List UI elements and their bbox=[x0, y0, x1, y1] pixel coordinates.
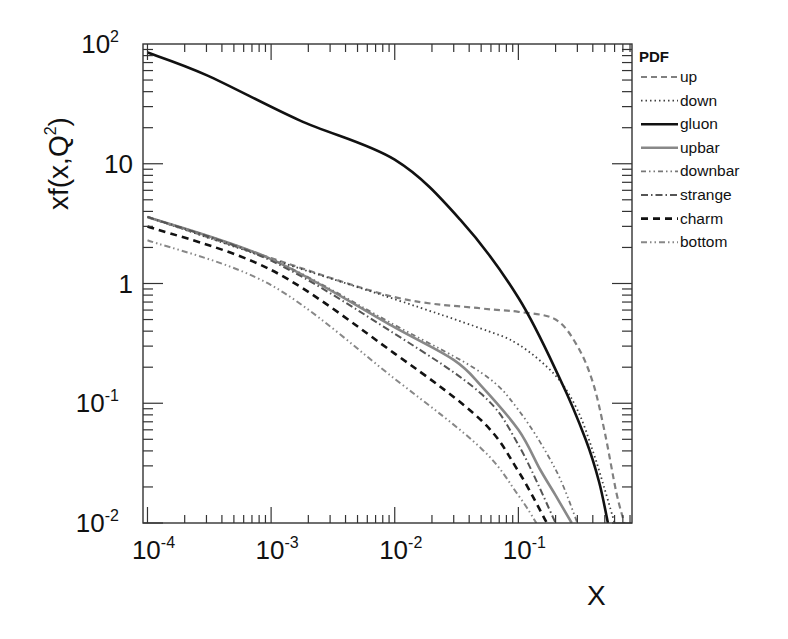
y-axis-title-main: xf(x,Q bbox=[43, 135, 74, 210]
x-tick-label: 10-3 bbox=[256, 534, 299, 565]
legend-label: bottom bbox=[680, 233, 727, 250]
y-tick-label: 10-2 bbox=[76, 507, 119, 538]
y-axis-title-close: ) bbox=[43, 117, 74, 126]
tick-labels: 10-410-310-210-110-210-1110102 bbox=[76, 28, 546, 565]
pdf-chart: 10-410-310-210-110-210-1110102 xf(x,Q2) … bbox=[0, 0, 788, 639]
legend-item-downbar: downbar bbox=[641, 162, 739, 179]
legend-item-strange: strange bbox=[641, 186, 732, 203]
legend: PDF updowngluonupbardownbarstrangecharmb… bbox=[639, 48, 739, 250]
y-axis-title: xf(x,Q2) bbox=[42, 117, 74, 210]
legend-item-up: up bbox=[641, 68, 697, 85]
series-charm-curve bbox=[148, 226, 547, 523]
legend-label: strange bbox=[680, 186, 732, 203]
legend-item-upbar: upbar bbox=[641, 139, 720, 156]
legend-item-charm: charm bbox=[641, 210, 723, 227]
series-gluon-curve bbox=[148, 53, 608, 524]
y-tick-label: 10 bbox=[104, 149, 133, 179]
y-tick-label: 102 bbox=[81, 28, 119, 59]
y-axis-title-sup: 2 bbox=[42, 126, 59, 135]
legend-item-bottom: bottom bbox=[641, 233, 727, 250]
legend-item-down: down bbox=[641, 92, 717, 109]
legend-label: gluon bbox=[680, 115, 718, 132]
legend-label: down bbox=[680, 92, 717, 109]
plot-frame bbox=[143, 44, 632, 523]
x-axis-title: X bbox=[587, 580, 606, 611]
plot-curves bbox=[148, 53, 625, 524]
legend-label: up bbox=[680, 68, 697, 85]
legend-item-gluon: gluon bbox=[641, 115, 718, 132]
y-tick-label: 1 bbox=[119, 269, 133, 299]
series-upbar-curve bbox=[148, 217, 572, 523]
x-tick-label: 10-1 bbox=[503, 534, 546, 565]
series-downbar-curve bbox=[148, 217, 578, 523]
legend-label: upbar bbox=[680, 139, 720, 156]
x-tick-label: 10-2 bbox=[379, 534, 422, 565]
x-tick-label: 10-4 bbox=[132, 534, 175, 565]
axis-ticks bbox=[143, 44, 632, 523]
legend-label: charm bbox=[680, 210, 723, 227]
legend-title: PDF bbox=[639, 48, 669, 65]
y-tick-label: 10-1 bbox=[76, 387, 119, 418]
legend-label: downbar bbox=[680, 162, 739, 179]
